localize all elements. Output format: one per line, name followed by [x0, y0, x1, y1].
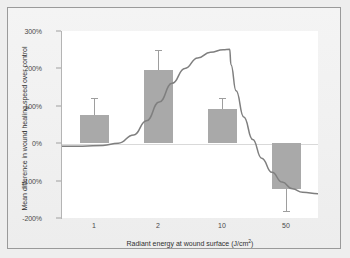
bar — [208, 109, 237, 143]
y-tick-mark — [56, 68, 61, 69]
x-axis-title: Radiant energy at wound surface (J/cm2) — [62, 238, 318, 247]
y-tick-mark — [56, 180, 61, 181]
y-tick-label: 0% — [32, 140, 42, 147]
error-bar-cap — [91, 98, 98, 99]
error-bar-cap — [283, 211, 290, 212]
y-axis-line — [61, 31, 62, 219]
error-bar — [222, 98, 223, 109]
superscript-two: 2 — [248, 238, 251, 244]
y-axis-title: Mean difference in wound healing speed o… — [21, 39, 28, 219]
x-tick-label: 1 — [92, 222, 96, 229]
y-tick-mark — [56, 31, 61, 32]
y-tick-mark — [56, 218, 61, 219]
bar — [272, 143, 301, 189]
bar — [144, 70, 173, 143]
x-tick-label: 50 — [282, 222, 290, 229]
x-tick-label: 2 — [156, 222, 160, 229]
y-tick-mark — [56, 105, 61, 106]
y-tick-mark — [56, 143, 61, 144]
error-bar — [286, 189, 287, 211]
bar — [80, 115, 109, 143]
x-tick-label: 10 — [218, 222, 226, 229]
error-bar — [158, 50, 159, 71]
error-bar-cap — [219, 98, 226, 99]
error-bar-cap — [155, 50, 162, 51]
y-tick-label: 300% — [24, 28, 42, 35]
error-bar — [94, 98, 95, 115]
figure-container: 300%200%100%0%-100%-200% Mean difference… — [0, 0, 350, 258]
